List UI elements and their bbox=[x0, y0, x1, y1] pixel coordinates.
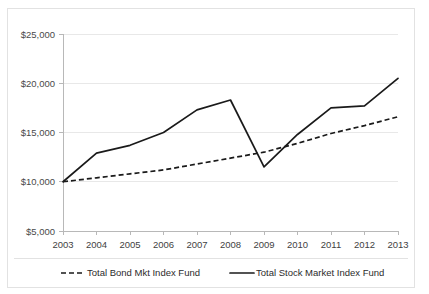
x-tick-label: 2006 bbox=[153, 239, 174, 250]
x-tick-label: 2012 bbox=[354, 239, 375, 250]
x-tick-label: 2003 bbox=[52, 239, 73, 250]
x-tick-label: 2010 bbox=[287, 239, 308, 250]
x-tick-label: 2009 bbox=[253, 239, 274, 250]
gridlines-group bbox=[59, 34, 398, 231]
y-tick-label: $15,000 bbox=[21, 127, 55, 138]
chart-legend: Total Bond Mkt Index FundTotal Stock Mar… bbox=[61, 267, 384, 278]
x-tick-label: 2013 bbox=[387, 239, 408, 250]
x-tick-label: 2007 bbox=[186, 239, 207, 250]
data-series-group bbox=[63, 78, 398, 181]
x-tick-label: 2004 bbox=[86, 239, 107, 250]
y-tick-labels-group: $25,000$20,000$15,000$10,000$5,000 bbox=[21, 29, 55, 237]
legend-label: Total Stock Market Index Fund bbox=[256, 267, 384, 278]
line-chart: $25,000$20,000$15,000$10,000$5,000 20032… bbox=[8, 9, 414, 287]
y-tick-label: $5,000 bbox=[26, 226, 55, 237]
y-tick-label: $10,000 bbox=[21, 176, 55, 187]
x-tick-label: 2008 bbox=[220, 239, 241, 250]
chart-container: $25,000$20,000$15,000$10,000$5,000 20032… bbox=[7, 8, 415, 288]
x-tickmarks-group bbox=[63, 231, 398, 235]
y-tick-label: $25,000 bbox=[21, 29, 55, 40]
x-tick-label: 2011 bbox=[321, 239, 341, 250]
legend-label: Total Bond Mkt Index Fund bbox=[87, 267, 200, 278]
x-tick-label: 2005 bbox=[119, 239, 140, 250]
x-tick-labels-group: 2003200420052006200720082009201020112012… bbox=[52, 239, 408, 250]
y-tick-label: $20,000 bbox=[21, 78, 55, 89]
